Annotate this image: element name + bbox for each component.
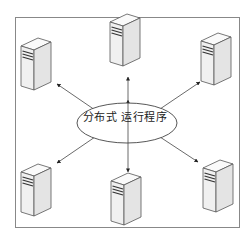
- server-bottom-right-icon: [203, 160, 233, 212]
- server-top-right-icon: [201, 33, 231, 85]
- arrow-to-bottom-left: [57, 137, 95, 163]
- arrow-to-top-left: [57, 84, 95, 110]
- server-bottom-center-icon: [111, 173, 141, 225]
- center-label: 分布式 运行程序: [75, 108, 175, 124]
- server-top-left-icon: [21, 38, 51, 90]
- server-bottom-left-icon: [21, 164, 51, 216]
- arrow-to-bottom-right: [160, 137, 198, 162]
- server-top-center-icon: [110, 14, 140, 66]
- arrow-to-top-right: [160, 82, 200, 109]
